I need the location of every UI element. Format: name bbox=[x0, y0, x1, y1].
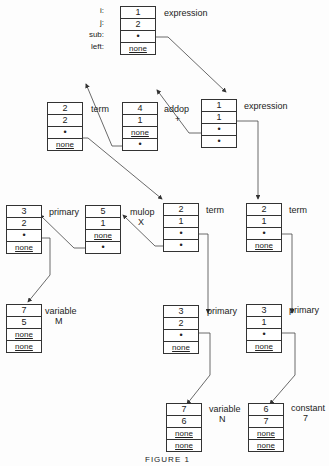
cell-sub: • bbox=[202, 124, 236, 136]
cell-left: none bbox=[7, 341, 41, 352]
cell-left: none bbox=[247, 240, 281, 251]
cell-j: 1 bbox=[247, 317, 281, 329]
label-expression: expression bbox=[244, 101, 288, 111]
label-variable: variable bbox=[209, 404, 241, 414]
label-variable-name: N bbox=[219, 414, 226, 424]
cell-sub: none bbox=[167, 428, 201, 440]
label-addop: addop bbox=[164, 104, 189, 114]
cell-left: none bbox=[167, 440, 201, 451]
cell-sub: • bbox=[247, 329, 281, 341]
cell-sub: • bbox=[7, 230, 41, 242]
cell-j: 1 bbox=[123, 115, 157, 127]
record-root-expression: 1 2 • none bbox=[120, 6, 156, 55]
record-term: 2 2 • none bbox=[47, 102, 83, 151]
record-expression: 1 1 • • bbox=[201, 99, 237, 148]
cell-left: none bbox=[7, 242, 41, 253]
cell-sub: • bbox=[164, 228, 198, 240]
field-label-j: j: bbox=[74, 17, 104, 29]
label-term: term bbox=[206, 205, 224, 215]
cell-left: none bbox=[164, 342, 198, 353]
cell-sub: • bbox=[48, 127, 82, 139]
cell-i: 3 bbox=[247, 305, 281, 317]
record-mulop: 5 1 none • bbox=[85, 205, 121, 254]
cell-i: 7 bbox=[7, 305, 41, 317]
cell-j: 2 bbox=[121, 19, 155, 31]
cell-j: 6 bbox=[167, 416, 201, 428]
label-term: term bbox=[289, 205, 307, 215]
cell-j: 1 bbox=[202, 112, 236, 124]
cell-i: 1 bbox=[121, 7, 155, 19]
cell-left: • bbox=[164, 240, 198, 251]
cell-i: 2 bbox=[164, 204, 198, 216]
figure-caption: FIGURE 1 bbox=[145, 455, 190, 464]
cell-j: 7 bbox=[249, 416, 283, 428]
cell-left: none bbox=[247, 341, 281, 352]
field-label-sub: sub: bbox=[74, 29, 104, 41]
cell-left: • bbox=[202, 136, 236, 147]
cell-left: • bbox=[86, 242, 120, 253]
cell-sub: none bbox=[7, 329, 41, 341]
record-term: 2 1 • • bbox=[163, 203, 199, 252]
cell-left: none bbox=[48, 139, 82, 150]
cell-j: 2 bbox=[7, 218, 41, 230]
cell-left: • bbox=[123, 139, 157, 150]
label-addop-symbol: + bbox=[175, 114, 180, 124]
cell-sub: • bbox=[247, 228, 281, 240]
field-label-i: i: bbox=[74, 5, 104, 17]
field-label-left: left: bbox=[74, 41, 104, 53]
record-variable-n: 7 6 none none bbox=[166, 403, 202, 452]
label-variable-name: M bbox=[55, 316, 63, 326]
cell-j: 5 bbox=[7, 317, 41, 329]
record-variable-m: 7 5 none none bbox=[6, 304, 42, 353]
cell-j: 2 bbox=[164, 318, 198, 330]
cell-sub: none bbox=[249, 428, 283, 440]
cell-sub: • bbox=[121, 31, 155, 43]
cell-sub: none bbox=[123, 127, 157, 139]
cell-sub: • bbox=[164, 330, 198, 342]
parse-tree-diagram: i: j: sub: left: 1 2 • none expression 1… bbox=[0, 0, 329, 466]
label-term: term bbox=[91, 104, 109, 114]
record-term: 2 1 • none bbox=[246, 203, 282, 252]
record-addop: 4 1 none • bbox=[122, 102, 158, 151]
cell-i: 1 bbox=[202, 100, 236, 112]
label-mulop-symbol: X bbox=[138, 217, 144, 227]
label-root: expression bbox=[164, 8, 208, 18]
label-variable: variable bbox=[45, 306, 77, 316]
cell-j: 1 bbox=[247, 216, 281, 228]
cell-i: 5 bbox=[86, 206, 120, 218]
label-primary: primary bbox=[207, 306, 237, 316]
label-constant-value: 7 bbox=[303, 413, 308, 423]
label-primary: primary bbox=[289, 305, 319, 315]
label-constant: constant bbox=[291, 403, 325, 413]
cell-j: 2 bbox=[48, 115, 82, 127]
record-primary: 3 2 • none bbox=[163, 305, 199, 354]
cell-i: 7 bbox=[167, 404, 201, 416]
record-primary: 3 1 • none bbox=[246, 304, 282, 353]
record-constant: 6 7 none none bbox=[248, 403, 284, 452]
cell-i: 2 bbox=[48, 103, 82, 115]
cell-i: 4 bbox=[123, 103, 157, 115]
cell-j: 1 bbox=[86, 218, 120, 230]
cell-i: 6 bbox=[249, 404, 283, 416]
label-mulop: mulop bbox=[130, 207, 155, 217]
cell-left: none bbox=[249, 440, 283, 451]
cell-sub: none bbox=[86, 230, 120, 242]
cell-i: 2 bbox=[247, 204, 281, 216]
label-primary: primary bbox=[49, 207, 79, 217]
cell-i: 3 bbox=[7, 206, 41, 218]
record-primary: 3 2 • none bbox=[6, 205, 42, 254]
cell-j: 1 bbox=[164, 216, 198, 228]
cell-i: 3 bbox=[164, 306, 198, 318]
cell-left: none bbox=[121, 43, 155, 54]
